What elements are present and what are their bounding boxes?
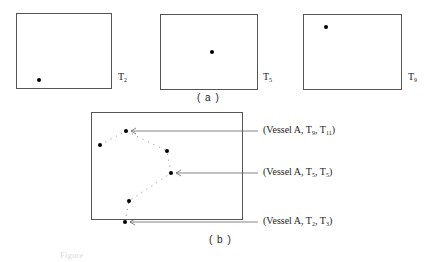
trajectory-point-5: [127, 199, 131, 203]
arrow-t9-t11: [131, 128, 258, 134]
trajectory-point-4: [169, 171, 173, 175]
annotation-t5-t5: (Vessel A, T5, T5): [263, 166, 332, 178]
annotation-t2-t3: (Vessel A, T2, T3): [263, 215, 332, 227]
annotation-t9-t11: (Vessel A, T9, T11): [263, 124, 335, 136]
trajectory-point-2: [98, 143, 102, 147]
arrow-t5-t5: [176, 170, 258, 176]
arrow-t2-t3: [130, 219, 258, 225]
trajectory-overlay: [0, 0, 429, 262]
trajectory-point-1: [124, 129, 128, 133]
panel-b-caption: ( b ): [209, 234, 232, 245]
trajectory-point-6: [123, 220, 127, 224]
trajectory-point-3: [165, 149, 169, 153]
figure-caption: Figure: [60, 250, 84, 260]
trajectory-path: [100, 131, 171, 222]
